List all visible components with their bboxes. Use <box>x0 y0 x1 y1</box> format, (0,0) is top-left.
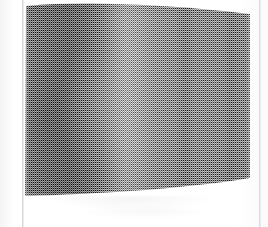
scanned-page: Halftone-screened grayscale photograph o… <box>0 0 268 227</box>
scan-ghost-shadow-2 <box>70 206 220 224</box>
left-margin-rule-soft <box>23 0 24 227</box>
halftone-screen-checker <box>24 0 252 198</box>
halftone-figure <box>24 0 252 198</box>
right-margin-rule-soft <box>260 0 261 227</box>
